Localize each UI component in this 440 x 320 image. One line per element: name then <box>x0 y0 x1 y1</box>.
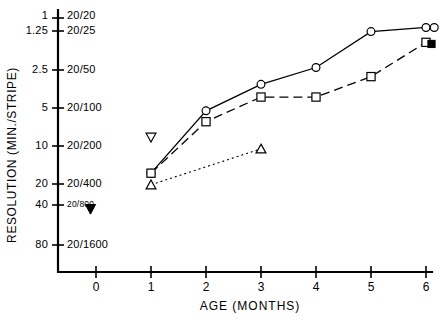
filled-inverted-triangle-marker <box>85 204 95 214</box>
chart-figure: RESOLUTION (MIN./STRIPE) 1 1.25 2.5 5 10… <box>0 0 440 320</box>
y-right-label-20-20: 20/20 <box>67 9 96 21</box>
x-axis-title: AGE (MONTHS) <box>200 299 301 313</box>
square-series-line <box>151 42 426 173</box>
triangle-series-point-1 <box>146 180 156 189</box>
y-left-label-10: 10 <box>35 139 48 151</box>
y-left-label-1.25: 1.25 <box>26 24 48 36</box>
circle-series-point-2 <box>202 107 210 115</box>
y-axis-left-labels: 1 1.25 2.5 5 10 20 40 80 <box>26 9 48 250</box>
x-label-2: 2 <box>203 280 210 294</box>
y-left-label-2.5: 2.5 <box>32 63 48 75</box>
filled-square-marker <box>428 40 435 47</box>
x-label-1: 1 <box>148 280 155 294</box>
y-right-label-20-25: 20/25 <box>67 24 96 36</box>
x-label-6: 6 <box>423 280 430 294</box>
overlapping-circle-marker <box>430 24 438 32</box>
circle-series-point-3 <box>257 80 265 88</box>
triangle-series-point-3 <box>256 144 266 153</box>
y-right-label-20-400: 20/400 <box>67 177 102 189</box>
annotation-markers-layer <box>85 24 438 215</box>
axis-lines <box>58 10 432 272</box>
y-axis-right-labels: 20/20 20/25 20/50 20/100 20/200 20/400 2… <box>67 9 108 250</box>
square-series-point-5 <box>367 73 375 81</box>
circle-series-point-6 <box>422 24 430 32</box>
y-left-label-80: 80 <box>35 238 48 250</box>
square-series-point-2 <box>202 118 210 126</box>
circle-series-point-4 <box>312 64 320 72</box>
y-left-label-40: 40 <box>35 198 48 210</box>
square-series-point-3 <box>257 93 265 101</box>
y-left-label-1: 1 <box>42 9 48 21</box>
resolution-vs-age-plot: RESOLUTION (MIN./STRIPE) 1 1.25 2.5 5 10… <box>0 0 440 320</box>
square-series-point-4 <box>312 93 320 101</box>
y-right-label-20-50: 20/50 <box>67 63 96 75</box>
circle-series-line <box>151 27 426 173</box>
square-series-point-1 <box>147 169 155 177</box>
x-label-0: 0 <box>93 280 100 294</box>
y-right-label-20-200: 20/200 <box>67 139 102 151</box>
x-label-5: 5 <box>368 280 375 294</box>
x-label-3: 3 <box>258 280 265 294</box>
y-right-label-20-1600: 20/1600 <box>67 238 108 250</box>
y-left-label-20: 20 <box>35 177 48 189</box>
x-axis-labels: 0 1 2 3 4 5 6 <box>93 280 430 294</box>
data-series-layer <box>146 24 430 189</box>
y-right-label-20-100: 20/100 <box>67 101 102 113</box>
y-axis-title: RESOLUTION (MIN./STRIPE) <box>5 67 19 243</box>
circle-series-point-5 <box>367 28 375 36</box>
open-inverted-triangle-marker <box>146 133 156 142</box>
x-label-4: 4 <box>313 280 320 294</box>
y-left-label-5: 5 <box>42 101 48 113</box>
